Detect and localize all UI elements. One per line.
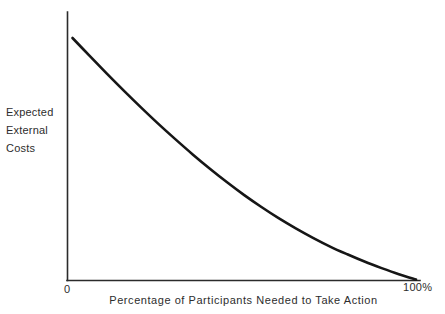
chart-figure: Expected External Costs Percentage of Pa… — [0, 0, 445, 314]
expected-costs-curve — [73, 38, 417, 280]
y-axis-label: Expected External Costs — [6, 103, 64, 157]
chart-plot-area — [0, 0, 445, 314]
x-tick-label-max: 100% — [403, 281, 432, 293]
x-axis-label: Percentage of Participants Needed to Tak… — [67, 294, 420, 307]
x-tick-label-origin: 0 — [64, 283, 70, 295]
